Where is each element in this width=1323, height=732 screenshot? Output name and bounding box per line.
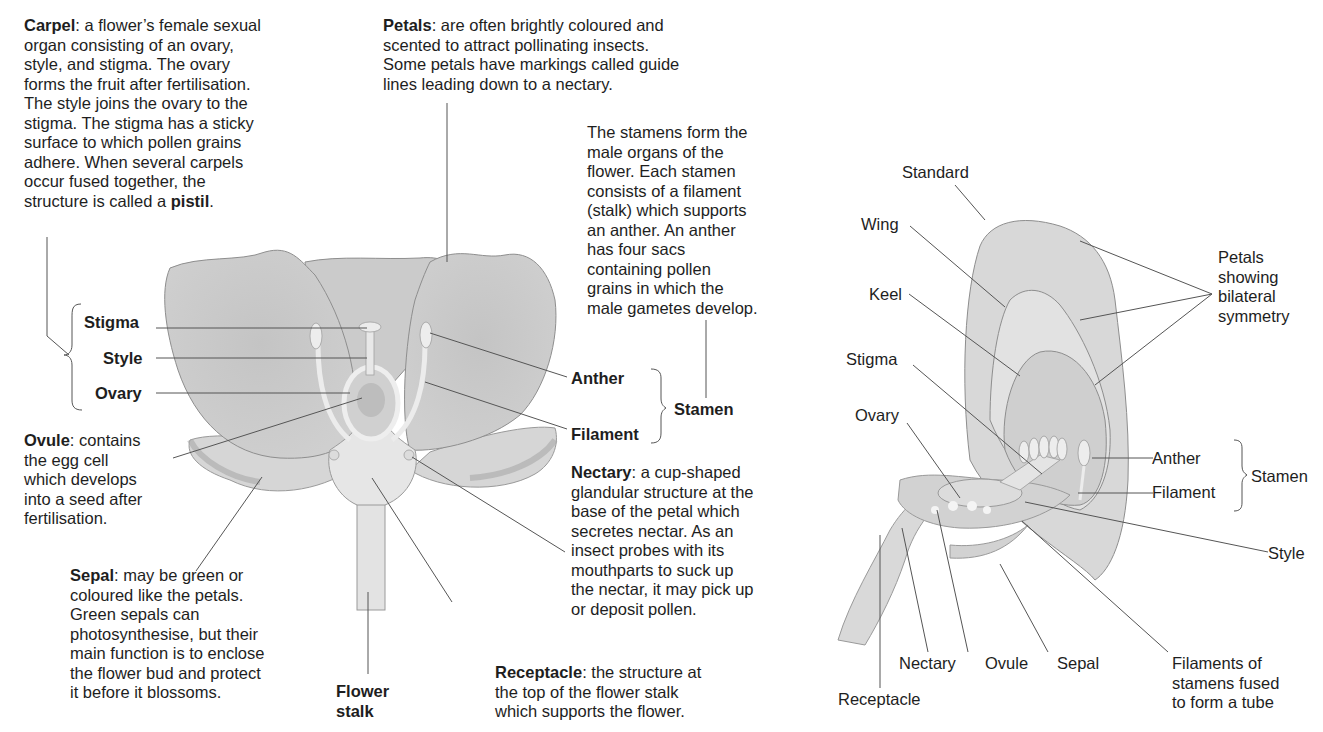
carpel-text: : a flower’s female sexual organ consist…	[24, 16, 261, 210]
nectary-text: : a cup-shaped glandular structure at th…	[571, 463, 754, 618]
label-keel: Keel	[869, 285, 902, 304]
label-nectary-right: Nectary	[899, 654, 956, 673]
label-sepal-right: Sepal	[1057, 654, 1099, 673]
flower-stalk-text: Flower stalk	[336, 682, 389, 720]
label-ovule-right: Ovule	[985, 654, 1028, 673]
carpel-tail: .	[209, 192, 214, 210]
label-receptacle-right: Receptacle	[838, 690, 921, 709]
carpel-description: Carpel: a flower’s female sexual organ c…	[24, 16, 364, 211]
label-anther-right: Anther	[1152, 449, 1201, 468]
label-filament-right: Filament	[1152, 483, 1215, 502]
label-stamen-right: Stamen	[1251, 467, 1308, 486]
label-stigma-left: Stigma	[84, 313, 139, 332]
receptacle-term: Receptacle	[495, 663, 582, 681]
sepal-description: Sepal: may be green or coloured like the…	[70, 566, 330, 703]
label-ovary-right: Ovary	[855, 406, 899, 425]
label-ovary-left: Ovary	[95, 384, 142, 403]
stamens-text: The stamens form the male organs of the …	[587, 123, 758, 317]
petals-symmetry-text: Petals showing bilateral symmetry	[1218, 248, 1290, 325]
carpel-term: Carpel	[24, 16, 75, 34]
label-wing: Wing	[861, 215, 899, 234]
label-standard: Standard	[902, 163, 969, 182]
left-flower-illustration	[165, 250, 557, 610]
nectary-description: Nectary: a cup-shaped glandular structur…	[571, 463, 831, 619]
pistil-term: pistil	[171, 192, 210, 210]
label-style-left: Style	[103, 349, 142, 368]
nectary-term: Nectary	[571, 463, 632, 481]
label-stamen-left: Stamen	[674, 400, 734, 419]
petals-description: Petals: are often brightly coloured and …	[383, 16, 803, 94]
receptacle-description: Receptacle: the structure at the top of …	[495, 663, 775, 722]
label-style-right: Style	[1268, 544, 1305, 563]
label-filaments-tube: Filaments of stamens fused to form a tub…	[1172, 654, 1279, 713]
label-petals-symmetry: Petals showing bilateral symmetry	[1218, 248, 1290, 326]
sepal-term: Sepal	[70, 566, 114, 584]
ovule-term: Ovule	[24, 431, 70, 449]
ovule-description: Ovule: contains the egg cell which devel…	[24, 431, 184, 529]
label-stigma-right: Stigma	[846, 350, 897, 369]
stamens-description: The stamens form the male organs of the …	[587, 123, 817, 318]
sepal-text: : may be green or coloured like the peta…	[70, 566, 264, 701]
label-flower-stalk: Flower stalk	[336, 682, 389, 721]
label-anther-left: Anther	[571, 369, 624, 388]
label-filament-left: Filament	[571, 425, 639, 444]
filaments-tube-text: Filaments of stamens fused to form a tub…	[1172, 654, 1279, 711]
petals-term: Petals	[383, 16, 432, 34]
